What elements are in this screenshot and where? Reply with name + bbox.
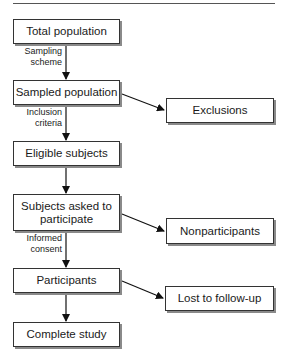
node-label: Complete study bbox=[27, 328, 107, 341]
node-label: Total population bbox=[26, 25, 107, 38]
edge-label-line: criteria bbox=[14, 118, 62, 129]
node-eligible-subjects: Eligible subjects bbox=[13, 141, 120, 166]
node-label-line: Subjects asked to bbox=[21, 200, 112, 213]
node-label: Lost to follow-up bbox=[178, 292, 262, 305]
edge-label-informed-consent: Informed consent bbox=[14, 233, 62, 254]
edge-label-line: scheme bbox=[14, 57, 62, 68]
node-subjects-asked: Subjects asked to participate bbox=[13, 194, 120, 231]
node-label: Sampled population bbox=[16, 86, 118, 99]
node-label: Exclusions bbox=[193, 104, 248, 117]
edge-label-inclusion-criteria: Inclusion criteria bbox=[14, 107, 62, 128]
node-label-line: participate bbox=[40, 213, 93, 226]
node-sampled-population: Sampled population bbox=[13, 80, 120, 105]
node-lost-to-follow-up: Lost to follow-up bbox=[165, 286, 274, 311]
node-exclusions: Exclusions bbox=[166, 98, 274, 123]
node-nonparticipants: Nonparticipants bbox=[166, 218, 274, 244]
edge-label-line: consent bbox=[14, 244, 62, 255]
node-total-population: Total population bbox=[13, 19, 120, 44]
node-label: Participants bbox=[36, 274, 96, 287]
node-complete-study: Complete study bbox=[13, 322, 120, 347]
node-label: Eligible subjects bbox=[25, 147, 107, 160]
edge-label-line: Inclusion bbox=[14, 107, 62, 118]
edge-label-line: Sampling bbox=[14, 46, 62, 57]
edge-label-sampling-scheme: Sampling scheme bbox=[14, 46, 62, 67]
node-participants: Participants bbox=[13, 268, 120, 293]
edge-label-line: Informed bbox=[14, 233, 62, 244]
node-label: Nonparticipants bbox=[180, 225, 260, 238]
